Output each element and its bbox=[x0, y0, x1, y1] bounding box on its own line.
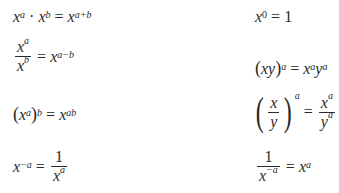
equals-sign: = bbox=[286, 158, 295, 176]
base: x bbox=[13, 8, 20, 26]
base: x bbox=[299, 158, 306, 176]
inner: xy bbox=[261, 60, 275, 78]
base: x bbox=[255, 8, 262, 26]
equals-sign: = bbox=[55, 8, 64, 26]
equals-sign: = bbox=[271, 8, 280, 26]
equals-sign: = bbox=[37, 48, 46, 66]
fraction: 1 x−a bbox=[257, 148, 280, 185]
formula-power-of-power: ( xa )b = xab bbox=[13, 104, 76, 125]
formula-product-rule: xa · xb = xa+b bbox=[13, 8, 91, 26]
equals-sign: = bbox=[304, 103, 313, 121]
equals-sign: = bbox=[36, 158, 45, 176]
denominator: xb bbox=[15, 56, 31, 75]
formula-negative-exponent: x−a = 1 xa bbox=[13, 148, 69, 185]
result: 1 bbox=[284, 8, 292, 26]
fraction: xa ya bbox=[319, 94, 335, 131]
fraction: x y bbox=[268, 94, 279, 131]
formula-quotient-rule: xa xb = xa−b bbox=[13, 38, 74, 75]
numerator: x bbox=[268, 94, 279, 112]
equals-sign: = bbox=[46, 106, 55, 124]
base: x bbox=[59, 106, 66, 124]
outer-exponent: a bbox=[295, 90, 300, 101]
formula-zero-exponent: x0 = 1 bbox=[255, 8, 292, 26]
denominator: ya bbox=[319, 112, 335, 131]
fraction: 1 xa bbox=[51, 148, 67, 185]
base: x bbox=[68, 8, 75, 26]
denominator: x−a bbox=[257, 166, 280, 185]
base: x bbox=[19, 106, 26, 124]
base: x bbox=[38, 8, 45, 26]
dot-operator: · bbox=[29, 8, 34, 26]
formula-reciprocal-negative-exponent: 1 x−a = xa bbox=[255, 148, 311, 185]
base: x bbox=[13, 158, 20, 176]
denominator: y bbox=[268, 112, 279, 131]
left-paren: ( bbox=[256, 92, 264, 132]
formula-power-of-product: ( xy )a = xa ya bbox=[255, 58, 327, 79]
base: x bbox=[50, 48, 57, 66]
denominator: xa bbox=[51, 166, 67, 185]
fraction: xa xb bbox=[15, 38, 31, 75]
formula-power-of-quotient: ( x y ) a = xa ya bbox=[253, 92, 337, 132]
equals-sign: = bbox=[290, 60, 299, 78]
right-paren: ) bbox=[284, 92, 292, 132]
